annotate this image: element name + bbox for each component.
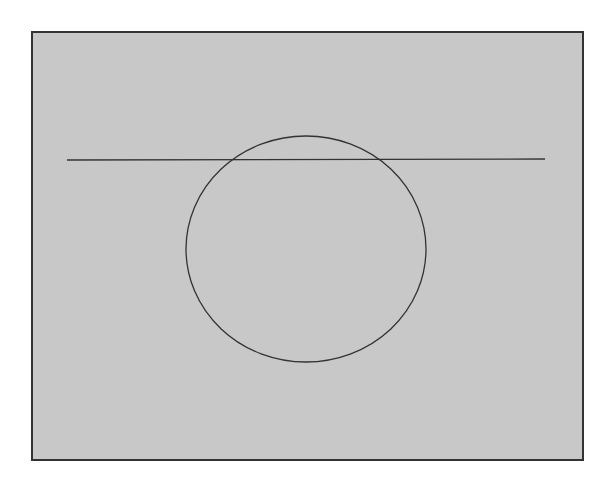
diagram-canvas — [0, 0, 614, 484]
horizontal-line — [67, 159, 545, 160]
circle-shape — [186, 136, 426, 362]
